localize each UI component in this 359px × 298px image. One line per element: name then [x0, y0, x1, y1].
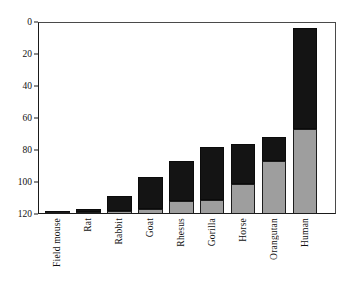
bar-group[interactable]: [200, 147, 225, 214]
bar-segment-lower[interactable]: [293, 129, 318, 214]
bar-segment-upper[interactable]: [169, 161, 194, 201]
y-tick-label: 100: [18, 177, 32, 187]
bars-layer: [38, 22, 336, 214]
bar-segment-lower[interactable]: [231, 184, 256, 214]
x-tick-label: Horse: [238, 218, 248, 242]
bar-segment-upper[interactable]: [293, 28, 318, 129]
x-tick-label: Field mouse: [52, 218, 62, 267]
bar-segment-lower[interactable]: [107, 211, 132, 214]
bar-group[interactable]: [45, 211, 70, 214]
y-axis: 120 100 80 60 40 20 0: [0, 22, 38, 214]
bar-segment-upper[interactable]: [262, 137, 287, 161]
bar-group[interactable]: [293, 28, 318, 214]
bar-segment-lower[interactable]: [169, 201, 194, 214]
y-tick-label: 0: [27, 17, 32, 27]
x-tick-label: Rhesus: [176, 218, 186, 247]
bar-segment-lower[interactable]: [76, 212, 101, 214]
stacked-bar-chart: 120 100 80 60 40 20 0 Field mouseRatRabb…: [0, 0, 359, 298]
bar-group[interactable]: [138, 177, 163, 214]
y-tick-label: 60: [23, 113, 33, 123]
x-axis-labels: Field mouseRatRabbitGoatRhesusGorillaHor…: [38, 216, 336, 298]
x-tick-label: Gorilla: [207, 218, 217, 246]
x-tick-label: Human: [300, 218, 310, 247]
bar-group[interactable]: [107, 196, 132, 214]
x-tick-label: Orangutan: [269, 218, 279, 260]
plot-area: [38, 22, 336, 214]
bar-group[interactable]: [231, 144, 256, 214]
x-tick-label: Goat: [145, 218, 155, 237]
bar-group[interactable]: [169, 161, 194, 214]
bar-group[interactable]: [262, 137, 287, 214]
x-tick-label: Rabbit: [114, 218, 124, 245]
bar-segment-lower[interactable]: [262, 161, 287, 214]
y-tick-label: 120: [18, 209, 32, 219]
y-tick-label: 40: [23, 81, 33, 91]
bar-segment-upper[interactable]: [231, 144, 256, 184]
x-tick-label: Rat: [83, 218, 93, 232]
y-tick-label: 80: [23, 145, 33, 155]
bar-segment-lower[interactable]: [138, 209, 163, 214]
bar-segment-upper[interactable]: [200, 147, 225, 200]
bar-segment-upper[interactable]: [107, 196, 132, 210]
bar-segment-upper[interactable]: [138, 177, 163, 209]
y-tick-label: 20: [23, 49, 33, 59]
bar-segment-lower[interactable]: [45, 212, 70, 214]
bar-segment-lower[interactable]: [200, 200, 225, 214]
bar-group[interactable]: [76, 209, 101, 214]
